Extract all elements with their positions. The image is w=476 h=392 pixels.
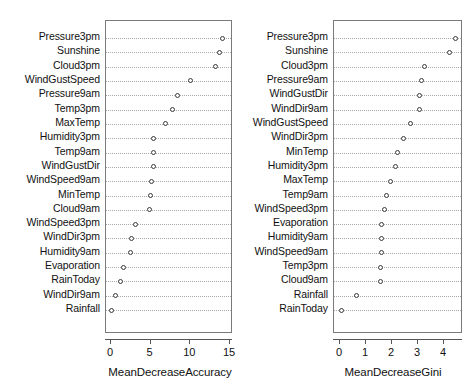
category-label: Temp3pm (283, 260, 328, 271)
data-point (133, 222, 138, 227)
category-label: Humidity9am (40, 246, 100, 257)
gridline (106, 181, 231, 183)
axis-line (105, 339, 232, 340)
data-point (453, 36, 458, 41)
data-point (417, 93, 422, 98)
gridline (106, 253, 231, 255)
category-label: Temp9am (55, 146, 100, 157)
gridline (334, 281, 461, 283)
gridline (106, 310, 231, 312)
axis-tick-label: 10 (183, 346, 195, 358)
category-label: MaxTemp (283, 174, 328, 185)
category-label: Pressure9am (267, 74, 328, 85)
category-label: Pressure3pm (39, 31, 100, 42)
category-label: Pressure9am (39, 88, 100, 99)
axis-tick-label: 3 (414, 346, 420, 358)
gridline (106, 38, 231, 40)
axis-tick-label: 0 (336, 346, 342, 358)
category-label: MaxTemp (55, 117, 100, 128)
gridline (334, 124, 461, 126)
data-point (388, 179, 393, 184)
gridline (334, 67, 461, 69)
category-label: Rainfall (66, 303, 100, 314)
gridline (106, 296, 231, 298)
axis-tick-label: 4 (440, 346, 446, 358)
gridline (334, 95, 461, 97)
axis-tick (229, 339, 230, 344)
axis-tick (417, 339, 418, 344)
category-label: WindDir3pm (43, 231, 100, 242)
data-point (378, 265, 383, 270)
axis-tick (391, 339, 392, 344)
axis-tick-label: 2 (388, 346, 394, 358)
gridline (334, 310, 461, 312)
data-point (217, 50, 222, 55)
category-label: WindDir9am (271, 103, 328, 114)
gridline (334, 224, 461, 226)
category-label: Evaporation (45, 260, 100, 271)
data-point (339, 308, 344, 313)
category-label: WindSpeed9am (26, 174, 100, 185)
category-label: Sunshine (285, 45, 328, 56)
plot-area-accuracy (105, 20, 232, 333)
axis-tick (110, 339, 111, 344)
data-point (379, 222, 384, 227)
gridline (334, 196, 461, 198)
axis-tick-label: 0 (107, 346, 113, 358)
axis-tick-label: 5 (147, 346, 153, 358)
category-label: Cloud3pm (281, 60, 328, 71)
x-axis-title-gini: MeanDecreaseGini (345, 366, 442, 378)
gridline (106, 281, 231, 283)
category-label: Rainfall (294, 289, 328, 300)
category-label: RainToday (51, 274, 100, 285)
data-point (118, 279, 123, 284)
gridline (106, 81, 231, 83)
axis-tick-label: 15 (223, 346, 235, 358)
gridline (334, 253, 461, 255)
category-label: WindGustSpeed (25, 74, 100, 85)
gridline (334, 110, 461, 112)
category-label: Humidity3pm (40, 131, 100, 142)
gridline (106, 196, 231, 198)
data-point (128, 250, 133, 255)
category-label: RainToday (279, 303, 328, 314)
category-label: Humidity9am (268, 231, 328, 242)
gridline (334, 296, 461, 298)
category-label: WindDir9am (43, 289, 100, 300)
data-point (121, 265, 126, 270)
gridline (334, 210, 461, 212)
data-point (220, 36, 225, 41)
gridline (106, 167, 231, 169)
category-label: WindGustDir (42, 160, 100, 171)
gridline (334, 267, 461, 269)
variable-importance-panel-accuracy: Pressure3pmSunshineCloud3pmWindGustSpeed… (0, 0, 238, 392)
category-label: Temp3pm (55, 103, 100, 114)
category-label: WindSpeed3pm (26, 217, 100, 228)
category-labels-gini: Pressure3pmSunshineCloud3pmPressure9amWi… (238, 0, 331, 392)
axis-tick (365, 339, 366, 344)
category-label: WindGustDir (270, 88, 328, 99)
data-point (395, 150, 400, 155)
gridline (106, 238, 231, 240)
gridline (106, 138, 231, 140)
axis-tick (339, 339, 340, 344)
category-label: Evaporation (273, 217, 328, 228)
axis-tick (189, 339, 190, 344)
category-label: WindDir3pm (271, 131, 328, 142)
category-label: Pressure3pm (267, 31, 328, 42)
gridline (106, 110, 231, 112)
gridline (106, 153, 231, 155)
gridline (106, 224, 231, 226)
gridline (334, 52, 461, 54)
category-label: Temp9am (283, 189, 328, 200)
gridline (334, 238, 461, 240)
gridline (106, 52, 231, 54)
data-point (151, 150, 156, 155)
data-point (378, 279, 383, 284)
category-label: MinTemp (286, 146, 328, 157)
data-point (417, 107, 422, 112)
data-point (149, 179, 154, 184)
axis-tick (150, 339, 151, 344)
gridline (334, 81, 461, 83)
plot-area-gini (333, 20, 462, 333)
